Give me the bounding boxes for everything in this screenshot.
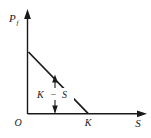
strike-point-label: K — [84, 117, 93, 128]
gap-label-k: K — [36, 89, 45, 100]
payoff-line — [29, 52, 89, 113]
y-axis-arrow-icon — [24, 9, 31, 19]
y-axis-label-subscript: f — [17, 19, 20, 27]
gap-label-s: S — [62, 89, 67, 100]
gap-label-minus: − — [50, 89, 57, 100]
payoff-diagram-figure: K − S P f S O K — [0, 0, 151, 138]
gap-arrow-head-down-icon — [52, 106, 58, 114]
y-axis-label-main: P — [8, 12, 16, 24]
x-axis-label: S — [135, 117, 141, 129]
payoff-diagram-canvas: K − S P f S O K — [0, 0, 151, 138]
origin-label: O — [14, 117, 21, 128]
